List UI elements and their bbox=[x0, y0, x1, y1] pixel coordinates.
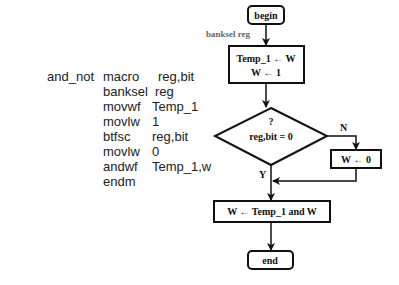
svg-text:begin: begin bbox=[254, 10, 278, 21]
svg-text:W ← 0: W ← 0 bbox=[341, 154, 371, 165]
yes-label: Y bbox=[259, 169, 267, 180]
svg-text:end: end bbox=[262, 255, 278, 266]
flowchart: begin banksel reg Temp_1 ← W W ← 1 ? reg… bbox=[0, 0, 399, 285]
decision-diamond: ? reg,bit = 0 bbox=[215, 108, 327, 165]
svg-text:W ← Temp_1 and W: W ← Temp_1 and W bbox=[227, 206, 317, 217]
no-label: N bbox=[340, 122, 348, 133]
svg-text:?: ? bbox=[269, 116, 274, 127]
begin-terminal: begin bbox=[248, 6, 284, 24]
svg-text:Temp_1 ← W: Temp_1 ← W bbox=[237, 53, 296, 64]
process-box-and: W ← Temp_1 and W bbox=[214, 201, 330, 222]
svg-text:W ← 1: W ← 1 bbox=[251, 67, 281, 78]
process-box-save-w: Temp_1 ← W W ← 1 bbox=[229, 46, 304, 83]
end-terminal: end bbox=[248, 251, 293, 269]
arrow-no bbox=[327, 136, 356, 149]
svg-text:reg,bit = 0: reg,bit = 0 bbox=[249, 131, 293, 142]
process-box-w-zero: W ← 0 bbox=[331, 150, 381, 168]
arrow-merge bbox=[273, 168, 356, 181]
banksel-annotation: banksel reg bbox=[206, 29, 251, 39]
